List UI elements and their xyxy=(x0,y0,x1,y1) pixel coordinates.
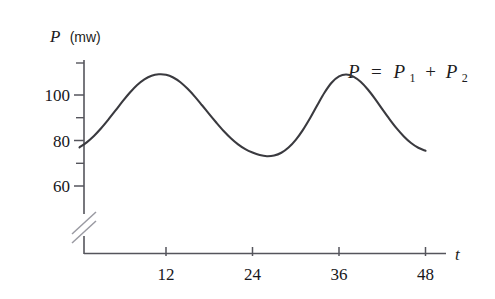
equation-plus: + xyxy=(425,61,436,82)
equation-term1-base: P xyxy=(392,61,405,82)
y-tick-label-80: 80 xyxy=(53,132,70,151)
x-axis-title: t xyxy=(455,245,461,264)
x-tick-label-24: 24 xyxy=(244,265,262,284)
x-axis-title-symbol: t xyxy=(455,245,461,264)
y-tick-label-100: 100 xyxy=(45,86,71,105)
x-tick-label-48: 48 xyxy=(417,265,434,284)
equation-equals: = xyxy=(371,61,382,82)
x-tick-label-12: 12 xyxy=(158,265,175,284)
plot-canvas: P (mw) 100 80 60 12 24 36 48 t P = P 1 +… xyxy=(0,0,495,299)
y-axis-title-symbol: P xyxy=(49,27,60,46)
x-tick-label-36: 36 xyxy=(331,265,348,284)
y-axis-title-unit: (mw) xyxy=(70,29,101,45)
curve-p-total xyxy=(80,74,426,156)
equation-annotation: P = P 1 + P 2 xyxy=(347,61,468,86)
equation-term1-sub: 1 xyxy=(410,71,416,85)
figure-container: P (mw) 100 80 60 12 24 36 48 t P = P 1 +… xyxy=(0,0,495,299)
y-tick-label-60: 60 xyxy=(53,177,70,196)
equation-term2-base: P xyxy=(445,61,458,82)
y-axis-title: P (mw) xyxy=(49,27,101,46)
equation-term2-sub: 2 xyxy=(462,71,468,85)
